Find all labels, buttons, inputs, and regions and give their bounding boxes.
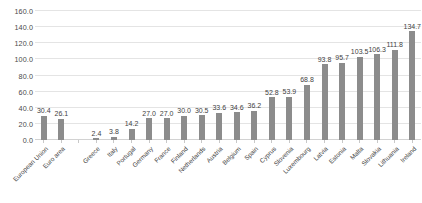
tick-mark: [324, 140, 325, 143]
bar: [234, 112, 240, 140]
bar-slot: 52.8: [263, 11, 281, 140]
tick-mark: [412, 140, 413, 143]
x-axis-tick: [246, 140, 264, 143]
bar-value-label: 53.9: [283, 88, 297, 95]
bar: [322, 64, 328, 140]
x-axis-label-slot: Latvia: [316, 144, 334, 203]
y-axis-tick-label: 80.0: [19, 71, 33, 80]
bar: [199, 115, 205, 140]
bar: [286, 97, 292, 140]
x-axis-tick: [281, 140, 299, 143]
x-axis-tick: [386, 140, 404, 143]
bar-series: 30.426.12.43.814.227.027.030.030.533.634…: [35, 11, 421, 140]
bar: [392, 50, 398, 140]
y-axis-tick-label: 140.0: [15, 23, 34, 32]
x-axis-tick: [105, 140, 123, 143]
tick-mark: [149, 140, 150, 143]
bar-value-label: 68.8: [300, 76, 314, 83]
bar-slot: 27.0: [158, 11, 176, 140]
bar-chart: 0.020.040.060.080.0100.0120.0140.0160.0 …: [0, 0, 422, 203]
bar-slot: 111.8: [386, 11, 404, 140]
bar-slot: 68.8: [298, 11, 316, 140]
bar-value-label: 36.2: [248, 102, 262, 109]
bar-slot: 53.9: [281, 11, 299, 140]
x-axis-label-slot: France: [158, 144, 176, 203]
bar: [181, 116, 187, 140]
bar: [146, 118, 152, 140]
bar: [216, 113, 222, 140]
tick-mark: [377, 140, 378, 143]
bar-slot: 34.6: [228, 11, 246, 140]
bar: [304, 85, 310, 140]
x-axis-tick: [403, 140, 421, 143]
y-axis-tick-label: 120.0: [15, 39, 34, 48]
x-axis-tick: [263, 140, 281, 143]
y-axis-tick-label: 40.0: [19, 103, 33, 112]
x-axis-label-slot: Finland: [175, 144, 193, 203]
x-axis-tick: [35, 140, 53, 143]
bar: [409, 31, 415, 140]
tick-mark: [131, 140, 132, 143]
tick-mark: [61, 140, 62, 143]
x-axis-label-slot: Malta: [351, 144, 369, 203]
bar: [374, 54, 380, 140]
tick-mark: [96, 140, 97, 143]
bar-slot: 3.8: [105, 11, 123, 140]
tick-mark: [78, 140, 79, 143]
bar-slot: 134.7: [403, 11, 421, 140]
bar-value-label: 14.2: [125, 120, 139, 127]
tick-mark: [342, 140, 343, 143]
tick-mark: [219, 140, 220, 143]
tick-mark: [359, 140, 360, 143]
x-axis-tick: [53, 140, 71, 143]
bar-value-label: 33.6: [212, 104, 226, 111]
y-axis-tick-label: 160.0: [15, 7, 34, 16]
bar-value-label: 95.7: [335, 54, 349, 61]
bar-value-label: 103.5: [351, 48, 369, 55]
bar-slot: 33.6: [210, 11, 228, 140]
x-axis-label-slot: Lithuania: [386, 144, 404, 203]
bar-slot: 95.7: [333, 11, 351, 140]
bar: [339, 63, 345, 140]
bar: [251, 111, 257, 140]
x-axis-tick: [333, 140, 351, 143]
x-axis-tick: [351, 140, 369, 143]
bar-value-label: 27.0: [160, 110, 174, 117]
tick-mark: [184, 140, 185, 143]
x-axis-tick: [368, 140, 386, 143]
bar-value-label: 2.4: [92, 130, 102, 137]
tick-mark: [254, 140, 255, 143]
tick-mark: [306, 140, 307, 143]
x-axis-label-slot: Belgium: [228, 144, 246, 203]
bar: [164, 118, 170, 140]
x-axis-tick: [140, 140, 158, 143]
x-axis-label-slot: Estonia: [333, 144, 351, 203]
x-axis-label-slot: Euro area: [53, 144, 71, 203]
x-axis-tick: [193, 140, 211, 143]
x-axis-tick: [175, 140, 193, 143]
bar-value-label: 3.8: [109, 128, 119, 135]
bar: [129, 129, 135, 140]
x-axis-label-slot: Luxembourg: [298, 144, 316, 203]
bar-value-label: 93.8: [318, 56, 332, 63]
x-axis-tick: [210, 140, 228, 143]
bar-slot: 26.1: [53, 11, 71, 140]
y-axis-tick-label: 0.0: [23, 136, 33, 145]
x-axis-label-slot: Netherlands: [193, 144, 211, 203]
bar-value-label: 30.5: [195, 107, 209, 114]
x-axis-tick: [158, 140, 176, 143]
x-axis-label-slot: European Union: [35, 144, 53, 203]
y-axis-tick-label: 20.0: [19, 119, 33, 128]
bar-value-label: 30.0: [177, 107, 191, 114]
x-axis-label-slot: Cyprus: [263, 144, 281, 203]
x-axis-tick: [88, 140, 106, 143]
tick-mark: [394, 140, 395, 143]
x-axis-tick: [316, 140, 334, 143]
bar-value-label: 106.3: [368, 46, 386, 53]
bar-value-label: 34.6: [230, 104, 244, 111]
tick-mark: [43, 140, 44, 143]
x-axis-label-slot: Germany: [140, 144, 158, 203]
x-axis-label-slot: Austria: [210, 144, 228, 203]
bar: [41, 116, 47, 141]
bar-value-label: 134.7: [403, 23, 421, 30]
